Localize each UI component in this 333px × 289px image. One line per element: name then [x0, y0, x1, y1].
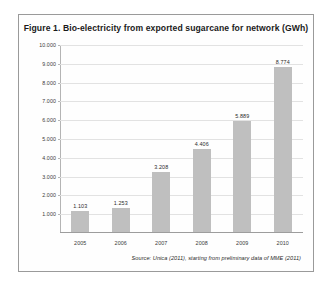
x-tick-label: 2010 [263, 240, 304, 246]
y-tick-mark [58, 83, 60, 84]
y-tick-label: 9.000 [42, 61, 56, 67]
y-tick-mark [58, 64, 60, 65]
figure-frame: Figure 1. Bio-electricity from exported … [18, 14, 314, 272]
source-note: Source: Unica (2011), starting from prel… [132, 255, 301, 261]
y-tick-label: 3.000 [42, 174, 56, 180]
plot-area: 1.0002.0003.0004.0005.0006.0007.0008.000… [60, 45, 303, 233]
x-tick-label: 2007 [141, 240, 182, 246]
y-tick-label: 4.000 [42, 155, 56, 161]
gridline [60, 101, 303, 102]
bar-value-label: 1.253 [114, 200, 128, 206]
bar-group: 1.103 [71, 44, 89, 232]
bar-group: 5.889 [233, 44, 251, 232]
bar [274, 67, 292, 232]
x-tick-label: 2008 [182, 240, 223, 246]
bar-value-label: 3.208 [154, 164, 168, 170]
y-tick-label: 6.000 [42, 117, 56, 123]
gridline [60, 64, 303, 65]
bar-group: 3.208 [152, 44, 170, 232]
x-tick-label: 2006 [101, 240, 142, 246]
gridline [60, 158, 303, 159]
bar [233, 121, 251, 232]
gridline [60, 120, 303, 121]
y-tick-mark [58, 195, 60, 196]
y-tick-label: 2.000 [42, 192, 56, 198]
bar-group: 1.253 [112, 44, 130, 232]
bar [152, 172, 170, 232]
x-tick-label: 2005 [60, 240, 101, 246]
y-tick-label: 8.000 [42, 80, 56, 86]
gridline [60, 139, 303, 140]
bar-group: 8.774 [274, 44, 292, 232]
y-tick-mark [58, 45, 60, 46]
bar-value-label: 1.103 [73, 203, 87, 209]
gridline [60, 177, 303, 178]
y-tick-mark [58, 101, 60, 102]
bar [193, 149, 211, 232]
y-tick-label: 5.000 [42, 136, 56, 142]
gridline [60, 214, 303, 215]
bar [71, 211, 89, 232]
bar-value-label: 4.406 [195, 141, 209, 147]
y-tick-mark [58, 158, 60, 159]
bar [112, 208, 130, 232]
gridline [60, 195, 303, 196]
x-axis-line [60, 232, 303, 233]
bar-value-label: 8.774 [276, 59, 290, 65]
y-tick-label: 1.000 [42, 211, 56, 217]
gridline [60, 45, 303, 46]
gridline [60, 83, 303, 84]
y-tick-label: 10.000 [39, 42, 56, 48]
bar-value-label: 5.889 [235, 113, 249, 119]
y-tick-label: 7.000 [42, 98, 56, 104]
y-tick-mark [58, 214, 60, 215]
y-tick-mark [58, 177, 60, 178]
x-tick-label: 2009 [222, 240, 263, 246]
chart-title: Figure 1. Bio-electricity from exported … [19, 23, 313, 33]
bar-group: 4.406 [193, 44, 211, 232]
y-tick-mark [58, 139, 60, 140]
y-tick-mark [58, 120, 60, 121]
